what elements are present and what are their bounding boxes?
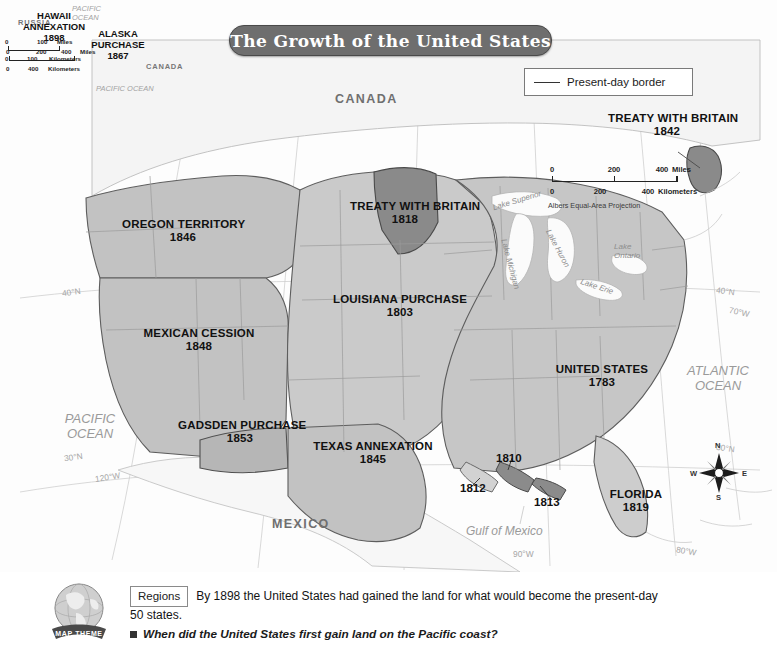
scale-km-mid: 200 bbox=[594, 187, 607, 196]
scale-km-zero: 0 bbox=[550, 187, 554, 196]
scale-projection-note: Albers Equal-Area Projection bbox=[548, 201, 688, 210]
territory-label-gadsden-purchase: GADSDEN PURCHASE 1853 bbox=[178, 419, 302, 445]
compass-east: E bbox=[742, 469, 747, 478]
alaska-scale-km-row: 0 400 Kilometers bbox=[6, 65, 102, 73]
annotation-1810: 1810 bbox=[496, 452, 522, 464]
map-page: CANADA MEXICO PACIFIC OCEAN ATLANTIC OCE… bbox=[0, 0, 777, 650]
scale-km-unit: Kilometers bbox=[658, 187, 697, 196]
scale-miles-row: 0 200 400 Miles bbox=[548, 165, 688, 176]
hawaii-km-unit: Kilometers bbox=[49, 55, 81, 62]
territory-label-oregon-territory: OREGON TERRITORY 1846 bbox=[122, 218, 244, 244]
atlantic-line-1: ATLANTIC bbox=[687, 363, 749, 378]
hawaii-title-line-1: HAWAII bbox=[37, 10, 71, 21]
territory-label-texas-annexation: TEXAS ANNEXATION 1845 bbox=[300, 440, 446, 466]
gadsden-name: GADSDEN PURCHASE bbox=[178, 419, 306, 431]
label-lake-ontario: Lake Ontario bbox=[614, 242, 640, 260]
annotation-1813: 1813 bbox=[534, 496, 560, 508]
alaska-km-unit: Kilometers bbox=[48, 65, 80, 72]
inset-label-pacific-ocean: PACIFIC OCEAN bbox=[96, 84, 154, 93]
inset-scale-hawaii: 0 100 Miles 0 100 Kilometers bbox=[5, 38, 105, 63]
lake-ontario-line-1: Lake bbox=[614, 242, 631, 251]
treaty-1818-year: 1818 bbox=[350, 213, 460, 226]
scale-miles-unit: Miles bbox=[672, 165, 691, 174]
label-lon-90w: 90°W bbox=[513, 549, 534, 559]
map-caption-bar: MAP THEME RegionsBy 1898 the United Stat… bbox=[0, 578, 777, 650]
map-legend: Present-day border bbox=[524, 68, 693, 96]
hawaii-miles-unit: Miles bbox=[57, 38, 72, 45]
compass-rose: N E S W bbox=[690, 440, 748, 502]
caption-question: When did the United States first gain la… bbox=[143, 627, 498, 641]
scale-km-end: 400 bbox=[642, 187, 655, 196]
hawaii-miles-zero: 0 bbox=[5, 38, 8, 45]
inset-label-canada: CANADA bbox=[146, 62, 183, 71]
legend-label-present-day-border: Present-day border bbox=[567, 76, 665, 88]
label-mexico: MEXICO bbox=[272, 517, 330, 531]
svg-text:MAP THEME: MAP THEME bbox=[55, 630, 102, 637]
map-canvas: CANADA MEXICO PACIFIC OCEAN ATLANTIC OCE… bbox=[0, 0, 777, 572]
territory-label-florida-1819: FLORIDA 1819 bbox=[598, 488, 674, 514]
florida-year: 1819 bbox=[598, 501, 674, 514]
territory-label-mexican-cession: MEXICAN CESSION 1848 bbox=[140, 327, 258, 353]
compass-north: N bbox=[715, 441, 720, 450]
pacific-line-1: PACIFIC bbox=[65, 411, 115, 426]
oregon-name: OREGON TERRITORY bbox=[122, 218, 245, 230]
scale-miles-end: 400 bbox=[656, 165, 669, 174]
alaska-km-end: 400 bbox=[28, 65, 38, 72]
mexican-cession-year: 1848 bbox=[140, 340, 258, 353]
annotation-1812: 1812 bbox=[460, 482, 486, 494]
map-theme-globe-icon: MAP THEME bbox=[48, 581, 110, 645]
treaty-1842-name: TREATY WITH BRITAIN bbox=[608, 112, 738, 124]
atlantic-line-2: OCEAN bbox=[695, 378, 741, 393]
scale-miles-mid: 200 bbox=[608, 165, 621, 174]
hawaii-miles-end: 100 bbox=[37, 38, 47, 45]
map-scale-bar: 0 200 400 Miles 0 200 400 Kilometers Alb… bbox=[548, 165, 688, 210]
caption-body-line: RegionsBy 1898 the United States had gai… bbox=[130, 586, 660, 624]
territory-label-treaty-britain-1818: TREATY WITH BRITAIN 1818 bbox=[350, 200, 460, 225]
texas-year: 1845 bbox=[300, 453, 446, 466]
alaska-km-zero: 0 bbox=[6, 65, 9, 72]
label-gulf-of-mexico: Gulf of Mexico bbox=[466, 524, 543, 539]
pacific-line-2: OCEAN bbox=[67, 426, 113, 441]
bullet-icon bbox=[130, 631, 137, 638]
hawaii-km-end: 100 bbox=[27, 55, 37, 62]
mexican-cession-name: MEXICAN CESSION bbox=[144, 327, 255, 339]
florida-name: FLORIDA bbox=[610, 488, 663, 500]
gadsden-year: 1853 bbox=[178, 432, 302, 445]
caption-theme-tag: Regions bbox=[130, 586, 188, 607]
label-atlantic-ocean: ATLANTIC OCEAN bbox=[672, 363, 764, 393]
alaska-year: 1867 bbox=[107, 50, 128, 61]
map-title-banner: The Growth of the United States bbox=[229, 25, 552, 56]
lake-ontario-line-2: Ontario bbox=[614, 251, 640, 260]
territory-label-treaty-britain-1842: TREATY WITH BRITAIN 1842 bbox=[608, 112, 726, 137]
territory-label-louisiana-purchase: LOUISIANA PURCHASE 1803 bbox=[320, 293, 480, 319]
map-title: The Growth of the United States bbox=[230, 31, 551, 51]
united-states-name: UNITED STATES bbox=[556, 363, 648, 375]
present-day-border-icon bbox=[534, 82, 560, 83]
label-pacific-ocean: PACIFIC OCEAN bbox=[46, 411, 134, 441]
compass-south: S bbox=[716, 493, 721, 502]
caption-body: By 1898 the United States had gained the… bbox=[130, 589, 658, 622]
texas-name: TEXAS ANNEXATION bbox=[313, 440, 433, 452]
louisiana-year: 1803 bbox=[320, 306, 480, 319]
treaty-1818-name: TREATY WITH BRITAIN bbox=[350, 200, 480, 212]
label-canada: CANADA bbox=[335, 92, 398, 106]
scale-miles-zero: 0 bbox=[550, 165, 554, 174]
hawaii-km-zero: 0 bbox=[5, 55, 8, 62]
oregon-year: 1846 bbox=[122, 231, 244, 244]
territory-label-united-states-1783: UNITED STATES 1783 bbox=[534, 363, 670, 389]
hawaii-title-line-2: ANNEXATION bbox=[23, 21, 85, 32]
scale-km-row: 0 200 400 Kilometers bbox=[548, 187, 688, 198]
hawaii-scale-km-row: 0 100 Kilometers bbox=[5, 55, 105, 63]
caption-text-block: RegionsBy 1898 the United States had gai… bbox=[130, 586, 660, 641]
treaty-1842-year: 1842 bbox=[608, 125, 726, 138]
louisiana-name: LOUISIANA PURCHASE bbox=[333, 293, 467, 305]
compass-west: W bbox=[690, 469, 697, 478]
caption-question-line: When did the United States first gain la… bbox=[130, 627, 660, 641]
united-states-year: 1783 bbox=[534, 376, 670, 389]
hawaii-scale-miles-row: 0 100 Miles bbox=[5, 38, 105, 46]
